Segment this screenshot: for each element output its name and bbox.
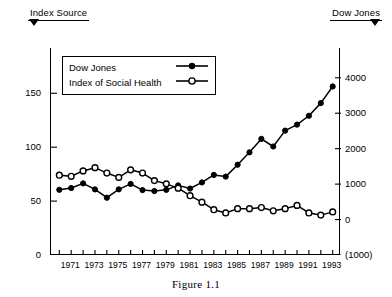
legend-label: Dow Jones [69, 61, 116, 74]
x-tick-label: 1983 [203, 260, 222, 270]
y-right-tick-label: 4000 [345, 73, 366, 83]
y-right-tick-label: 3000 [345, 108, 366, 118]
x-tick-label: 1973 [84, 260, 103, 270]
legend-marker-filled-circle-icon [161, 60, 209, 75]
legend-label: Index of Social Health [69, 76, 161, 89]
y-left-tick-label: 100 [25, 142, 41, 152]
legend-marker-open-circle-icon [161, 75, 209, 90]
data-series-layer [56, 84, 335, 218]
axis-annotation-left: Index Source [28, 7, 89, 21]
y-right-tick-label: 2000 [345, 144, 366, 154]
x-tick-label: 1991 [298, 260, 317, 270]
x-tick-label: 1987 [251, 260, 270, 270]
x-tick-label: 1979 [156, 260, 175, 270]
down-triangle-arrow-icon [29, 19, 39, 26]
chart-legend: Dow JonesIndex of Social Health [62, 56, 216, 95]
axis-annotation-right: Dow Jones [330, 7, 382, 21]
x-tick-label: 1977 [132, 260, 151, 270]
x-tick-label: 1975 [108, 260, 127, 270]
y-right-tick-label: (1000) [345, 250, 372, 260]
x-tick-label: 1981 [179, 260, 198, 270]
down-triangle-arrow-icon [370, 19, 380, 26]
figure-root: Index Source Dow Jones 050100150(1000)01… [0, 0, 392, 297]
figure-caption: Figure 1.1 [0, 278, 392, 290]
x-tick-label: 1971 [61, 260, 80, 270]
series-dow-jones [57, 84, 336, 200]
y-right-tick-label: 0 [345, 215, 350, 225]
x-axis-ticks [59, 250, 332, 255]
legend-entry: Index of Social Health [69, 75, 209, 90]
y-left-tick-label: 150 [25, 88, 41, 98]
x-tick-label: 1993 [322, 260, 341, 270]
y-left-tick-label: 50 [30, 196, 41, 206]
x-tick-label: 1989 [275, 260, 294, 270]
legend-entry: Dow Jones [69, 60, 209, 75]
x-tick-label: 1985 [227, 260, 246, 270]
y-axis-left-ticks [51, 93, 57, 201]
y-left-tick-label: 0 [36, 250, 41, 260]
y-right-tick-label: 1000 [345, 179, 366, 189]
y-axis-right-ticks [335, 78, 341, 255]
